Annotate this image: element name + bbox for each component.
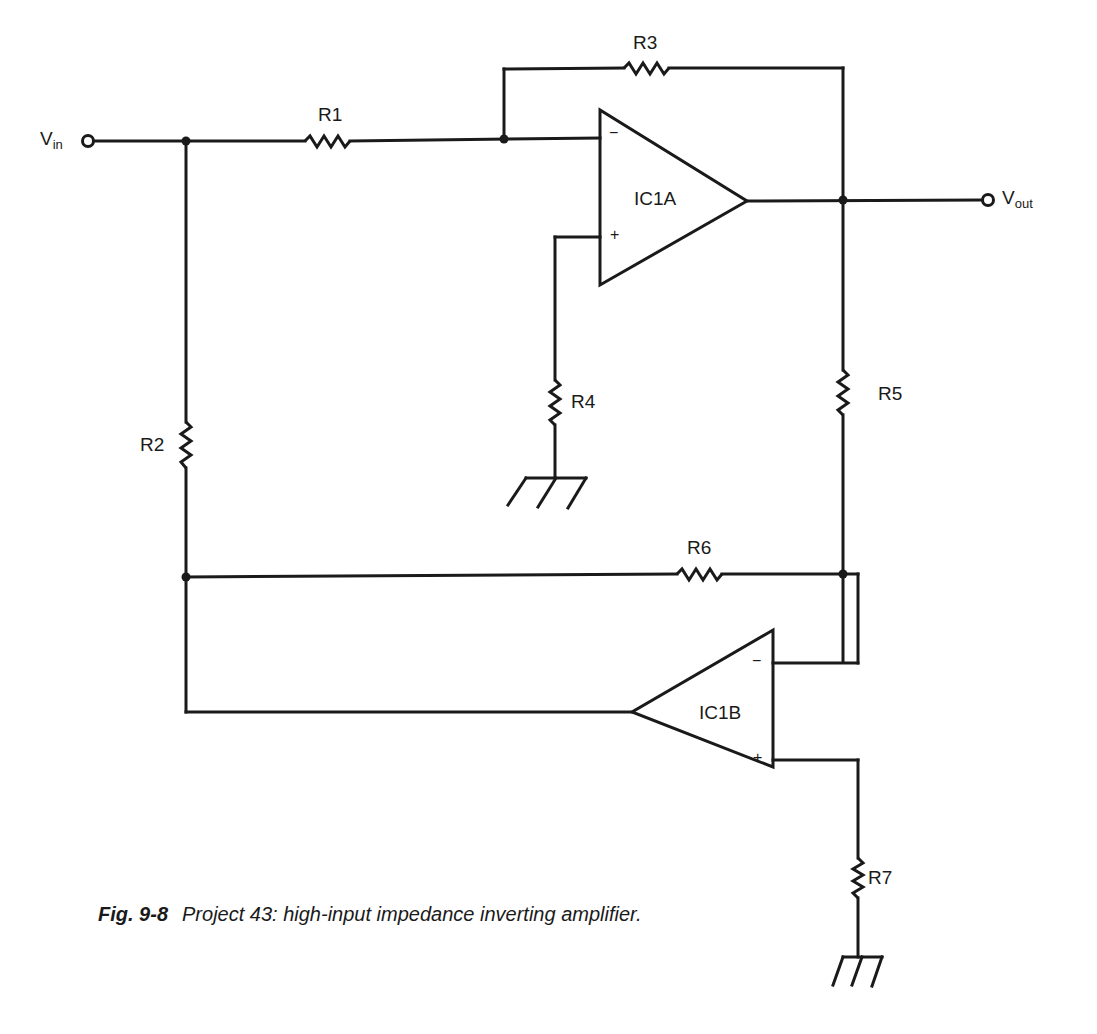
wire-r6-left — [186, 574, 677, 577]
junction-dot-r3 — [500, 135, 509, 144]
r3-label: R3 — [633, 32, 657, 54]
r7-label: R7 — [868, 867, 892, 889]
resistor-r2 — [181, 422, 191, 468]
junction-dot-r6 — [839, 570, 848, 579]
resistor-r5 — [838, 370, 848, 415]
vin-terminal — [83, 136, 94, 147]
opamp-ic1b — [632, 630, 773, 767]
ground-icon-r7 — [833, 957, 882, 986]
r4-label: R4 — [571, 391, 595, 413]
r2-label: R2 — [140, 434, 164, 456]
vout-label: Vout — [1002, 187, 1033, 211]
junction-dot-input — [182, 137, 191, 146]
vout-terminal — [983, 195, 994, 206]
ic1a-label: IC1A — [634, 188, 676, 210]
ic1a-plus-sign: + — [610, 226, 619, 244]
resistor-r3 — [624, 63, 669, 74]
figure-caption: Fig. 9-8Project 43: high-input impedance… — [98, 903, 642, 926]
wire-r3-left — [504, 68, 624, 69]
figure-caption-text: Project 43: high-input impedance inverti… — [182, 903, 642, 925]
ic1b-minus-sign: − — [752, 652, 761, 670]
resistor-r6 — [677, 569, 722, 580]
circuit-schematic — [0, 0, 1097, 1034]
r1-label: R1 — [318, 104, 342, 126]
ic1a-minus-sign: − — [609, 124, 618, 142]
vin-label: Vin — [40, 128, 63, 152]
junction-dot-r2 — [182, 573, 191, 582]
ic1b-plus-sign: + — [753, 749, 762, 767]
ground-icon-r4 — [508, 478, 586, 508]
r6-label: R6 — [687, 537, 711, 559]
resistor-r1 — [305, 136, 350, 147]
figure-number: Fig. 9-8 — [98, 903, 168, 925]
ic1b-label: IC1B — [699, 702, 741, 724]
resistor-r4 — [550, 380, 560, 425]
wire-output — [747, 200, 982, 201]
wire-r1-ic1a-minus — [350, 138, 600, 141]
junction-dot-output — [839, 196, 848, 205]
r5-label: R5 — [878, 383, 902, 405]
resistor-r7 — [853, 858, 863, 898]
